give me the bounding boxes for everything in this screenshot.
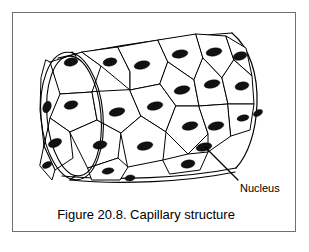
figure-container: Nucleus Figure 20.8. Capillary structure <box>0 0 309 252</box>
nucleus-icon <box>252 108 264 118</box>
nucleus-label: Nucleus <box>240 182 280 194</box>
capillary-diagram: Nucleus Figure 20.8. Capillary structure <box>0 0 309 252</box>
figure-caption: Figure 20.8. Capillary structure <box>57 207 235 222</box>
nucleus-icon <box>125 174 136 181</box>
